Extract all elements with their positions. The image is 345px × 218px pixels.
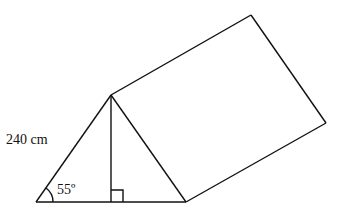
prism-diagram <box>0 0 345 218</box>
back-slant-edge <box>251 15 326 123</box>
angle-label: 55º <box>57 183 75 197</box>
slant-length-label: 240 cm <box>6 133 48 147</box>
base-depth-edge <box>186 123 326 202</box>
ridge-edge <box>111 15 251 95</box>
angle-arc <box>46 188 53 202</box>
slant-side-right <box>111 95 186 202</box>
right-angle-marker <box>111 190 123 202</box>
